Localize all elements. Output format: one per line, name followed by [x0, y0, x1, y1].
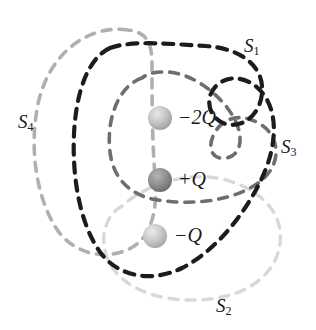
figure-canvas	[0, 0, 316, 330]
charge-sphere-minus-2q	[148, 106, 172, 130]
surface-label-s1-letter: S	[244, 35, 254, 56]
surface-label-s1: S1	[244, 36, 260, 55]
charge-label-plus-q: +Q	[178, 169, 206, 189]
charge-sphere-minus-q	[143, 224, 167, 248]
surface-label-s4-subscript: 4	[28, 120, 34, 134]
surface-label-s2: S2	[216, 296, 232, 315]
charge-sphere-plus-q	[148, 168, 172, 192]
charge-label-minus-q: −Q	[174, 225, 202, 245]
surface-label-s2-letter: S	[216, 295, 226, 316]
surface-label-s4-letter: S	[18, 111, 28, 132]
surface-label-s3: S3	[281, 137, 297, 156]
surface-label-s3-subscript: 3	[291, 145, 297, 159]
surface-label-s3-letter: S	[281, 136, 291, 157]
surface-label-s4: S4	[18, 112, 34, 131]
surface-label-s1-subscript: 1	[254, 44, 260, 58]
charge-label-minus-2q: −2Q	[178, 107, 216, 127]
gaussian-surfaces-figure: −2Q +Q −Q S1 S2 S3 S4	[0, 0, 316, 330]
surface-label-s2-subscript: 2	[226, 304, 232, 318]
